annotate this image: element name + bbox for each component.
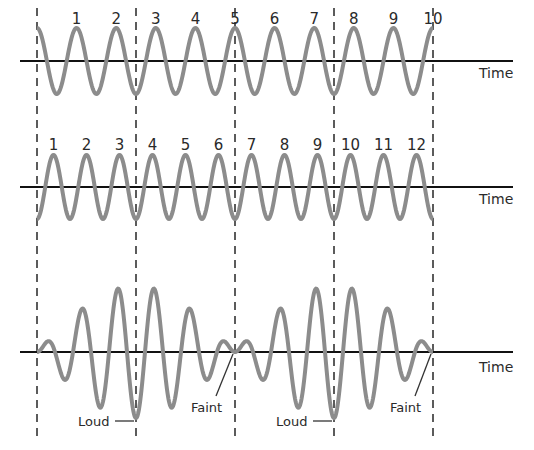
peak-label: 2 (111, 10, 121, 28)
peak-label: 9 (389, 10, 399, 28)
time-label-1: Time (478, 65, 513, 81)
peak-label: 3 (115, 136, 125, 154)
peak-label: 11 (374, 136, 393, 154)
peak-label: 8 (349, 10, 359, 28)
annotation-leader-line (415, 354, 431, 396)
peak-label: 7 (247, 136, 257, 154)
loud-label: Loud (276, 414, 307, 429)
peak-label: 3 (151, 10, 161, 28)
peak-label: 7 (309, 10, 319, 28)
peak-label: 2 (82, 136, 92, 154)
peak-label: 6 (214, 136, 224, 154)
peak-label: 1 (72, 10, 82, 28)
time-label-2: Time (478, 191, 513, 207)
beats-diagram: 12345678910 Time 123456789101112 Time Ti… (0, 0, 534, 450)
faint-label: Faint (390, 400, 421, 415)
peak-label: 1 (49, 136, 59, 154)
time-label-3: Time (478, 359, 513, 375)
panel-wave-2: 123456789101112 Time (20, 136, 513, 219)
peak-label: 5 (230, 10, 240, 28)
panel-sum-wave: Time LoudFaintLoudFaint (20, 289, 513, 429)
peak-label: 10 (423, 10, 442, 28)
annotation-leader-line (216, 354, 233, 396)
wave-1-peak-labels: 12345678910 (72, 10, 443, 28)
wave-2-peak-labels: 123456789101112 (49, 136, 426, 154)
peak-label: 5 (181, 136, 191, 154)
faint-label: Faint (191, 400, 222, 415)
peak-label: 12 (407, 136, 426, 154)
peak-label: 4 (191, 10, 201, 28)
peak-label: 6 (270, 10, 280, 28)
peak-label: 8 (280, 136, 290, 154)
panel-wave-1: 12345678910 Time (20, 10, 513, 94)
peak-label: 9 (313, 136, 323, 154)
peak-label: 4 (148, 136, 158, 154)
loud-label: Loud (78, 414, 109, 429)
dashed-guide-lines (37, 8, 433, 442)
peak-label: 10 (341, 136, 360, 154)
